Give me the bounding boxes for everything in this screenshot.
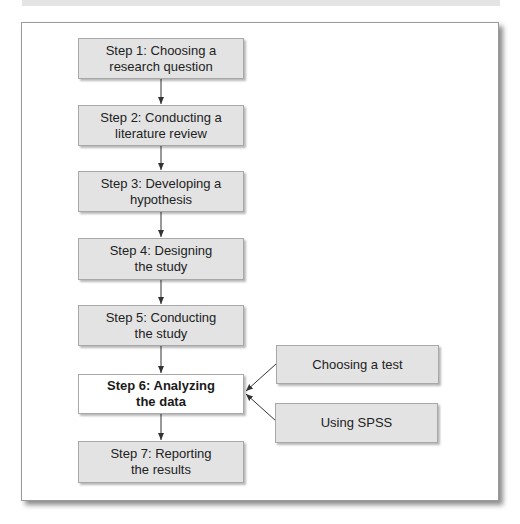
step-4-label: Step 4: Designing the study (110, 243, 213, 275)
step-3-label: Step 3: Developing a hypothesis (101, 176, 222, 208)
step-5-box: Step 5: Conducting the study (78, 305, 244, 346)
using-spss-label: Using SPSS (321, 415, 393, 431)
step-2-label: Step 2: Conducting a literature review (100, 110, 221, 142)
step-3-box: Step 3: Developing a hypothesis (78, 171, 244, 212)
step-7-box: Step 7: Reporting the results (78, 441, 244, 483)
choosing-test-box: Choosing a test (276, 345, 439, 384)
step-1-box: Step 1: Choosing a research question (78, 38, 244, 79)
step-7-label: Step 7: Reporting the results (110, 446, 211, 478)
step-6-box: Step 6: Analyzing the data (78, 374, 244, 414)
step-6-label: Step 6: Analyzing the data (107, 378, 215, 410)
step-4-box: Step 4: Designing the study (78, 238, 244, 280)
step-5-label: Step 5: Conducting the study (106, 310, 217, 342)
choosing-test-label: Choosing a test (312, 357, 402, 373)
arrow-spss-to-step6 (246, 394, 276, 421)
step-2-box: Step 2: Conducting a literature review (78, 105, 244, 146)
arrow-test-to-step6 (246, 364, 276, 391)
using-spss-box: Using SPSS (275, 403, 438, 443)
step-1-label: Step 1: Choosing a research question (106, 43, 217, 75)
